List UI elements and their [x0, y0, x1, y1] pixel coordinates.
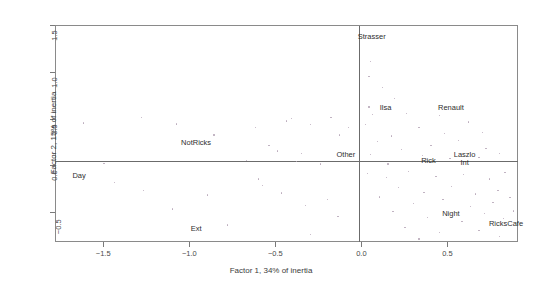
x-axis-tick-label: 0.0 — [356, 249, 366, 258]
x-axis-tick — [189, 242, 190, 247]
data-point — [386, 177, 387, 178]
data-point — [103, 163, 104, 164]
point-label-renault: Renault — [438, 104, 464, 112]
data-point — [337, 216, 338, 217]
point-label-night: Night — [442, 210, 460, 218]
point-label-other: Other — [337, 151, 356, 159]
point-label-rickscafe: RicksCafe — [489, 220, 523, 228]
data-point — [268, 145, 269, 146]
data-point — [176, 123, 177, 124]
point-label-ext: Ext — [191, 225, 202, 233]
point-label-ilsa: Ilsa — [380, 104, 392, 112]
data-point — [423, 192, 424, 193]
data-point — [489, 178, 490, 179]
y-axis-tick-label: −0.5 — [54, 212, 63, 227]
data-point — [379, 196, 380, 197]
x-axis-tick — [275, 242, 276, 247]
data-point — [330, 117, 331, 118]
data-point — [478, 230, 479, 231]
y-axis-tick-label: 1.5 — [50, 25, 59, 35]
data-point — [504, 172, 505, 173]
data-point — [398, 187, 399, 188]
data-point — [461, 221, 462, 222]
y-axis-tick-label: 1.0 — [50, 72, 59, 82]
data-point — [435, 176, 436, 177]
data-point — [305, 205, 306, 206]
data-point — [418, 238, 419, 239]
data-point — [83, 122, 84, 123]
reference-line-vertical — [359, 26, 360, 242]
x-axis-tick — [447, 242, 448, 247]
x-axis-title: Factor 1, 34% of inertia — [0, 266, 542, 275]
data-point — [449, 158, 450, 159]
x-axis-tick — [361, 242, 362, 247]
x-axis-tick-label: 0.5 — [442, 249, 452, 258]
point-label-notricks: NotRicks — [181, 139, 211, 147]
data-point — [281, 192, 282, 193]
data-point — [492, 202, 493, 203]
data-point — [286, 120, 287, 121]
reference-line-horizontal — [55, 161, 518, 162]
point-label-int: Int — [460, 159, 468, 167]
x-axis-tick-label: −1.5 — [96, 249, 111, 258]
data-point — [485, 148, 486, 149]
x-axis-tick — [103, 242, 104, 247]
data-point — [213, 134, 214, 135]
x-axis-tick-label: −1.0 — [182, 249, 197, 258]
data-point — [310, 234, 311, 235]
data-point — [367, 173, 368, 174]
point-label-rick: Rick — [421, 157, 436, 165]
data-point — [387, 163, 388, 164]
data-point — [368, 106, 369, 107]
data-point — [207, 194, 208, 195]
point-label-day: Day — [72, 172, 85, 180]
data-point — [391, 135, 392, 136]
scatter-plot: StrasserIlsaRenaultOtherRickLaszloIntNot… — [0, 0, 542, 286]
data-point — [368, 76, 369, 77]
point-label-strasser: Strasser — [358, 33, 386, 41]
x-axis-tick-label: −0.5 — [268, 249, 283, 258]
data-point — [497, 190, 498, 191]
data-point — [430, 145, 431, 146]
y-axis-title: Factor 2, 15% of inertia — [49, 92, 58, 175]
data-point — [470, 206, 471, 207]
data-point — [513, 210, 514, 211]
